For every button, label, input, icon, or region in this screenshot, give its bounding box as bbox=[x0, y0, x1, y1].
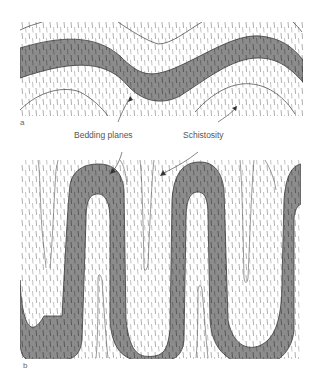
label-schistosity: Schistosity bbox=[183, 130, 224, 140]
panel-label-a: a bbox=[20, 118, 24, 127]
panel-a bbox=[20, 22, 303, 116]
fold-diagram bbox=[0, 0, 316, 383]
panel-label-b: b bbox=[23, 361, 27, 370]
label-bedding-planes: Bedding planes bbox=[74, 130, 133, 140]
panel-b bbox=[20, 160, 301, 366]
